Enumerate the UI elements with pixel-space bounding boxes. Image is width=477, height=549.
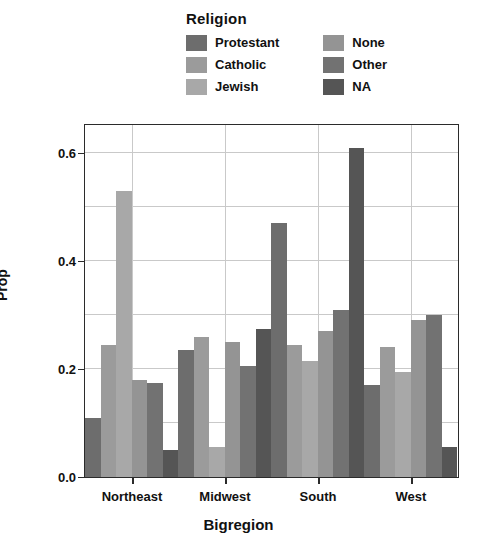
y-axis-tick-labels: 0.00.20.40.6 bbox=[36, 124, 76, 478]
legend-entry-other[interactable]: Other bbox=[323, 55, 387, 74]
bar-west-none[interactable] bbox=[411, 320, 427, 477]
legend-label-na: NA bbox=[352, 80, 371, 93]
x-tick-label-west: West bbox=[396, 489, 427, 504]
legend-swatch-protestant bbox=[186, 35, 207, 51]
legend-swatch-none bbox=[323, 35, 344, 51]
x-axis-label: Bigregion bbox=[0, 516, 477, 533]
bar-west-na[interactable] bbox=[442, 447, 458, 477]
bar-south-jewish[interactable] bbox=[302, 361, 318, 477]
y-tick-label: 0.2 bbox=[58, 361, 76, 376]
y-tick-label: 0.0 bbox=[58, 469, 76, 484]
x-tick-label-midwest: Midwest bbox=[199, 489, 250, 504]
legend-swatch-jewish bbox=[186, 79, 207, 95]
legend-entry-none[interactable]: None bbox=[323, 33, 387, 52]
y-tick-label: 0.6 bbox=[58, 145, 76, 160]
legend-entry-jewish[interactable]: Jewish bbox=[186, 77, 279, 96]
plot-area bbox=[84, 124, 459, 478]
bar-west-protestant[interactable] bbox=[364, 385, 380, 477]
legend-label-jewish: Jewish bbox=[215, 80, 258, 93]
y-tick-mark bbox=[78, 369, 84, 371]
bar-west-catholic[interactable] bbox=[380, 347, 396, 477]
bar-west-jewish[interactable] bbox=[395, 372, 411, 477]
y-axis-label: Prop bbox=[0, 269, 10, 301]
legend-swatch-na bbox=[323, 79, 344, 95]
bar-west-other[interactable] bbox=[426, 315, 442, 477]
x-tick-label-south: South bbox=[300, 489, 337, 504]
bar-northeast-none[interactable] bbox=[132, 380, 148, 477]
bar-south-other[interactable] bbox=[333, 310, 349, 477]
x-tick-mark bbox=[225, 478, 227, 484]
x-tick-label-northeast: Northeast bbox=[102, 489, 163, 504]
y-tick-label: 0.4 bbox=[58, 253, 76, 268]
bar-midwest-none[interactable] bbox=[225, 342, 241, 477]
y-tick-mark bbox=[78, 261, 84, 263]
legend-label-protestant: Protestant bbox=[215, 36, 279, 49]
x-tick-mark bbox=[411, 478, 413, 484]
legend-column-right: None Other NA bbox=[323, 33, 387, 96]
legend: Religion Protestant Catholic Jewish None bbox=[0, 10, 477, 96]
y-tick-mark bbox=[78, 153, 84, 155]
bar-midwest-protestant[interactable] bbox=[178, 350, 194, 477]
legend-entry-protestant[interactable]: Protestant bbox=[186, 33, 279, 52]
bar-midwest-jewish[interactable] bbox=[209, 447, 225, 477]
x-tick-mark bbox=[318, 478, 320, 484]
bar-south-catholic[interactable] bbox=[287, 345, 303, 477]
bar-south-na[interactable] bbox=[349, 148, 365, 477]
bar-midwest-catholic[interactable] bbox=[194, 337, 210, 477]
bar-midwest-other[interactable] bbox=[240, 366, 256, 477]
bar-south-none[interactable] bbox=[318, 331, 334, 477]
bar-midwest-na[interactable] bbox=[256, 329, 272, 478]
legend-swatch-other bbox=[323, 57, 344, 73]
legend-swatch-catholic bbox=[186, 57, 207, 73]
bar-northeast-other[interactable] bbox=[147, 383, 163, 478]
bar-northeast-na[interactable] bbox=[163, 450, 179, 477]
bars-layer bbox=[85, 125, 458, 477]
legend-label-other: Other bbox=[352, 58, 387, 71]
bar-south-protestant[interactable] bbox=[271, 223, 287, 477]
x-tick-mark bbox=[132, 478, 134, 484]
bar-northeast-jewish[interactable] bbox=[116, 191, 132, 477]
bar-northeast-catholic[interactable] bbox=[101, 345, 117, 477]
legend-label-catholic: Catholic bbox=[215, 58, 266, 71]
legend-title: Religion bbox=[186, 10, 477, 27]
legend-entry-na[interactable]: NA bbox=[323, 77, 387, 96]
legend-columns: Protestant Catholic Jewish None Other bbox=[186, 33, 477, 96]
legend-label-none: None bbox=[352, 36, 385, 49]
legend-entry-catholic[interactable]: Catholic bbox=[186, 55, 279, 74]
legend-column-left: Protestant Catholic Jewish bbox=[186, 33, 279, 96]
bar-northeast-protestant[interactable] bbox=[85, 418, 101, 477]
y-tick-mark bbox=[78, 477, 84, 479]
